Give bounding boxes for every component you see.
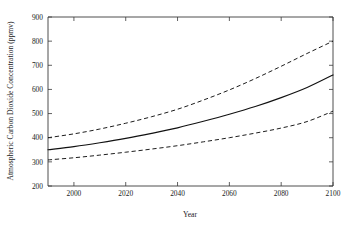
y-tick-label: 500: [32, 109, 43, 118]
y-tick-label: 700: [32, 61, 43, 70]
y-tick-label: 400: [32, 133, 43, 142]
x-tick-label: 2040: [170, 189, 185, 198]
x-tick-label: 2080: [274, 189, 289, 198]
y-tick-label: 200: [32, 182, 43, 191]
y-tick-label: 900: [32, 13, 43, 22]
co2-projection-chart: 200300400500600700800900 200020202040206…: [0, 0, 357, 226]
x-tick-label: 2000: [67, 189, 82, 198]
x-tick-label: 2060: [222, 189, 237, 198]
x-tick-label: 2020: [118, 189, 133, 198]
chart-figure: 200300400500600700800900 200020202040206…: [0, 0, 357, 226]
y-tick-label: 600: [32, 85, 43, 94]
y-tick-label: 300: [32, 158, 43, 167]
y-tick-label: 800: [32, 37, 43, 46]
x-axis-title: Year: [183, 210, 197, 219]
y-axis-title: Atmospheric Carbon Dioxide Concentration…: [6, 21, 15, 180]
x-tick-label: 2100: [326, 189, 341, 198]
